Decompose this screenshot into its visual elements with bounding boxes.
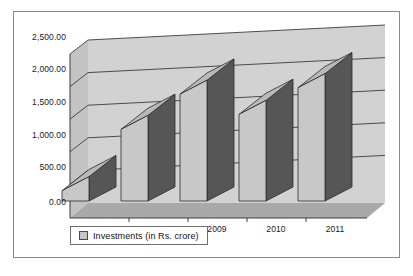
legend-swatch-icon: [79, 231, 88, 240]
y-tick-label-0: 0.00: [20, 197, 66, 207]
legend-series-label: Investments (in Rs. crore): [93, 231, 199, 241]
y-tick-label-500: 500.00: [20, 162, 66, 172]
chart-legend: Investments (in Rs. crore): [70, 226, 208, 245]
y-tick-label-2000: 2,000.00: [20, 64, 66, 74]
y-tick-label-1500: 1,500.00: [20, 97, 66, 107]
y-tick-label-2500: 2,500.00: [20, 32, 66, 42]
x-tick-label-2010: 2010: [253, 224, 299, 234]
x-tick-label-2011: 2011: [312, 224, 358, 234]
chart-frame-border: [13, 11, 400, 258]
y-tick-label-1000: 1,000.00: [20, 130, 66, 140]
chart-figure: 2,500.00 2,000.00 1,500.00 1,000.00 500.…: [0, 0, 413, 276]
